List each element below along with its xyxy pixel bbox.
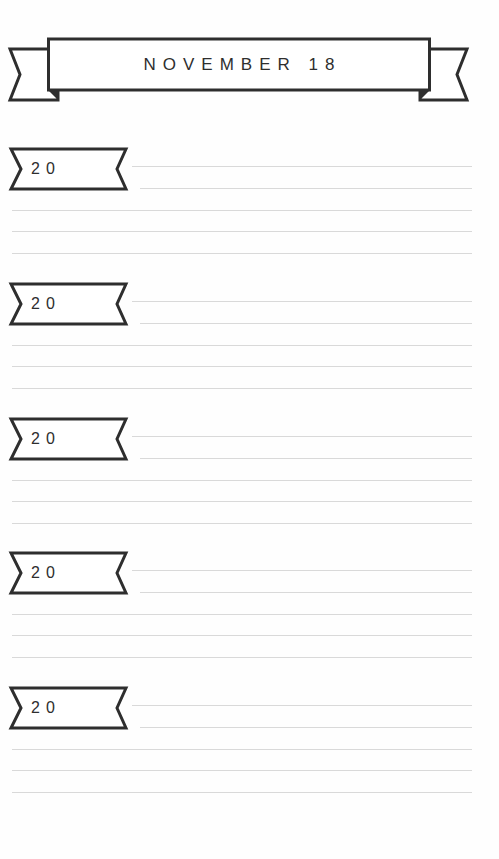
writing-line: [12, 523, 472, 524]
tag-ribbon-icon: [8, 147, 130, 191]
writing-line: [140, 188, 472, 189]
year-tag: 20: [8, 551, 130, 595]
writing-line: [132, 301, 472, 302]
year-label: 20: [31, 282, 61, 326]
writing-line: [12, 480, 472, 481]
tag-ribbon-icon: [8, 417, 130, 461]
planner-page: NOVEMBER 18 20 20: [0, 0, 499, 859]
tag-ribbon-icon: [8, 686, 130, 730]
year-label: 20: [31, 417, 61, 461]
tag-ribbon-icon: [8, 551, 130, 595]
year-label: 20: [31, 551, 61, 595]
writing-line: [12, 614, 472, 615]
writing-line: [132, 436, 472, 437]
writing-line: [12, 253, 472, 254]
writing-line: [140, 592, 472, 593]
writing-line: [12, 366, 472, 367]
year-entry-section: 20: [0, 417, 499, 537]
year-entry-section: 20: [0, 282, 499, 402]
writing-line: [12, 231, 472, 232]
writing-line: [140, 727, 472, 728]
writing-line: [140, 323, 472, 324]
writing-line: [140, 458, 472, 459]
writing-line: [132, 166, 472, 167]
date-banner: NOVEMBER 18: [0, 30, 499, 110]
year-entry-section: 20: [0, 147, 499, 267]
writing-line: [132, 570, 472, 571]
year-tag: 20: [8, 417, 130, 461]
year-label: 20: [31, 147, 61, 191]
writing-line: [12, 210, 472, 211]
writing-line: [12, 635, 472, 636]
writing-line: [12, 749, 472, 750]
year-tag: 20: [8, 686, 130, 730]
writing-line: [12, 345, 472, 346]
writing-line: [12, 770, 472, 771]
year-entry-section: 20: [0, 686, 499, 806]
writing-line: [132, 705, 472, 706]
year-tag: 20: [8, 282, 130, 326]
tag-ribbon-icon: [8, 282, 130, 326]
writing-line: [12, 792, 472, 793]
writing-line: [12, 501, 472, 502]
year-tag: 20: [8, 147, 130, 191]
date-title: NOVEMBER 18: [50, 40, 428, 90]
writing-line: [12, 657, 472, 658]
writing-line: [12, 388, 472, 389]
year-label: 20: [31, 686, 61, 730]
year-entry-section: 20: [0, 551, 499, 671]
